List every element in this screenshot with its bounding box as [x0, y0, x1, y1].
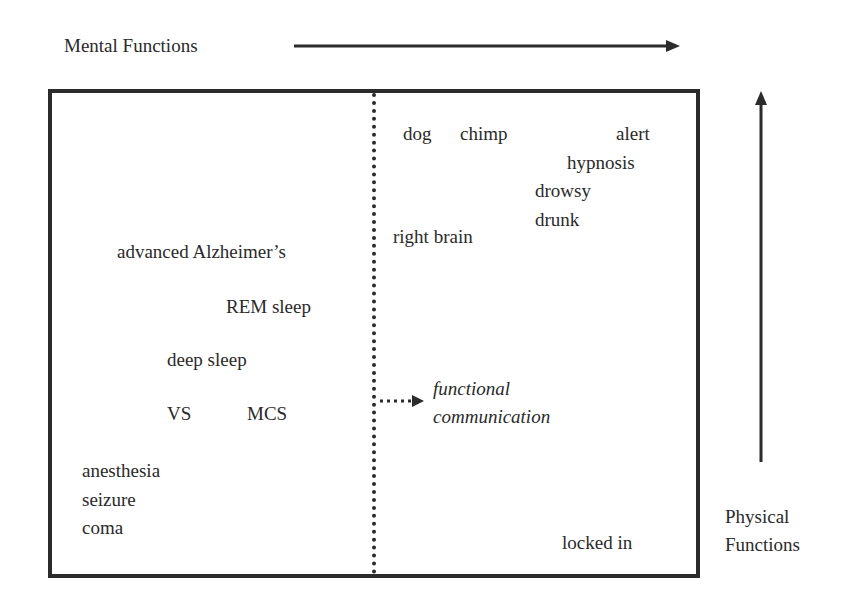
mental-functions-arrow-icon	[294, 40, 680, 52]
label-rem-sleep: REM sleep	[226, 297, 311, 316]
label-advanced-alzheimers: advanced Alzheimer’s	[117, 242, 286, 261]
label-alert: alert	[616, 124, 650, 143]
physical-functions-label-line1: Physical	[725, 507, 789, 526]
label-communication: communication	[433, 407, 550, 426]
label-chimp: chimp	[460, 124, 508, 143]
label-drowsy: drowsy	[535, 181, 591, 200]
physical-functions-arrow-icon	[755, 91, 767, 462]
physical-functions-label-line2: Functions	[725, 535, 800, 554]
label-seizure: seizure	[82, 490, 136, 509]
label-hypnosis: hypnosis	[567, 153, 635, 172]
label-functional: functional	[433, 379, 510, 398]
label-vs: VS	[167, 404, 191, 423]
label-drunk: drunk	[535, 210, 579, 229]
label-mcs: MCS	[247, 404, 287, 423]
label-dog: dog	[403, 124, 432, 143]
label-right-brain: right brain	[393, 227, 473, 246]
label-deep-sleep: deep sleep	[167, 350, 247, 369]
label-locked-in: locked in	[562, 533, 632, 552]
label-anesthesia: anesthesia	[82, 461, 160, 480]
consciousness-divider-line	[372, 93, 376, 574]
label-coma: coma	[82, 518, 123, 537]
